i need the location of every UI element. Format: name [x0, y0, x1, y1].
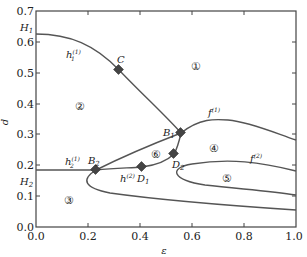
- y-tick-label: 0.0: [17, 221, 35, 234]
- x-tick-label: 0.4: [131, 230, 149, 243]
- label-d1: D1: [136, 173, 150, 186]
- curves: [36, 34, 296, 210]
- label-f2: f(2): [249, 152, 263, 164]
- x-axis-label: ε: [161, 245, 166, 256]
- y-tick-label: 0.3: [17, 128, 35, 141]
- curve-region5-lower: [177, 164, 296, 195]
- label-h21: h(1)2: [65, 155, 81, 169]
- y-axis-label: d: [0, 119, 10, 125]
- h2-label: H2: [19, 176, 34, 189]
- region-3: ③: [64, 194, 74, 207]
- region-5: ⑤: [222, 172, 232, 185]
- y-tick-label: 0.7: [17, 5, 35, 18]
- y-tick-label: 0.6: [17, 36, 35, 49]
- x-tick-label: 0.2: [79, 230, 97, 243]
- label-c: C: [117, 54, 125, 65]
- h1-label: H1: [19, 22, 33, 35]
- y-axis: [36, 42, 296, 196]
- curve-f1: [181, 120, 296, 141]
- label-h2: h(2): [120, 172, 136, 184]
- x-tick-label: 0.8: [235, 230, 253, 243]
- x-tick-label: 0.6: [183, 230, 201, 243]
- points: [91, 65, 186, 175]
- y-tick-label: 0.4: [17, 98, 35, 111]
- y-tick-label: 0.5: [17, 67, 35, 80]
- bifurcation-chart: 0.0 0.2 0.4 0.6 0.8 1.0 ε 0.0 0.1 0.2 0.…: [0, 0, 307, 257]
- label-f1: f(1): [207, 106, 221, 118]
- curve-h1-1: [36, 34, 181, 133]
- label-h11: h(1)1: [66, 48, 82, 62]
- region-2: ②: [75, 100, 85, 113]
- y-tick-label: 0.2: [17, 159, 35, 172]
- curve-h2: [96, 154, 174, 170]
- region-4: ④: [209, 142, 219, 155]
- curve-fold-lower: [87, 170, 296, 210]
- curve-f2: [192, 161, 296, 171]
- x-tick-label: 1.0: [285, 230, 303, 243]
- plot-frame: [36, 11, 296, 227]
- point-d1: [137, 162, 147, 172]
- region-1: ①: [191, 60, 201, 73]
- region-6: ⑥: [151, 148, 161, 161]
- y-tick-label: 0.1: [17, 190, 35, 203]
